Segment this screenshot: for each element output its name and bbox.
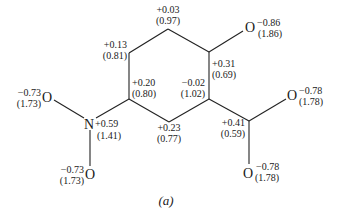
nitro-oxygen-lower: O −0.73 (1.73) (60, 164, 95, 187)
population: (0.97) (156, 15, 180, 27)
charge: +0.59 (95, 118, 118, 129)
ring-lowerright-label: −0.02 (1.02) (181, 77, 205, 100)
bond-top-upperleft (129, 29, 168, 53)
population: (0.81) (103, 50, 127, 62)
nitro-oxygen-upper: O −0.73 (1.73) (17, 87, 52, 110)
hydroxyl-oxygen: O −0.86 (1.86) (245, 17, 282, 40)
bond-carboxyl-right-o (249, 99, 286, 121)
charge: +0.03 (156, 4, 179, 15)
ring-upperleft-label: +0.13 (0.81) (103, 39, 127, 62)
population: (1.86) (258, 28, 282, 40)
bond-nitrogen-upper-o (54, 100, 84, 118)
charge: −0.73 (61, 164, 84, 175)
ring-top-label: +0.03 (0.97) (156, 4, 180, 27)
population: (1.73) (17, 98, 41, 110)
charge: −0.73 (18, 87, 41, 98)
population: (1.78) (255, 172, 279, 184)
charge: −0.78 (256, 161, 279, 172)
charge: −0.02 (182, 77, 205, 88)
population: (0.80) (132, 88, 156, 100)
population: (1.73) (60, 175, 84, 187)
ring-bonds (129, 29, 209, 122)
population: (0.59) (221, 128, 245, 140)
ring-bottom-label: +0.23 (0.77) (157, 122, 181, 145)
population: (1.41) (97, 130, 121, 142)
atom-symbol: O (85, 167, 95, 182)
bond-ring-hydroxyl-o (209, 31, 243, 52)
charge: +0.13 (104, 39, 127, 50)
bond-lowerright-bottom (169, 99, 209, 122)
bond-ring-nitrogen (96, 99, 129, 118)
carboxyl-oxygen-bottom: O −0.78 (1.78) (243, 161, 279, 184)
atom-symbol: O (287, 88, 297, 103)
molecule-diagram: +0.03 (0.97) +0.13 (0.81) +0.31 (0.69) +… (0, 0, 338, 217)
ring-upperright-label: +0.31 (0.69) (212, 58, 236, 81)
charge: +0.31 (212, 58, 235, 69)
charge: +0.41 (222, 117, 245, 128)
ring-lowerleft-label: +0.20 (0.80) (132, 77, 156, 100)
bond-top-upperright (168, 29, 209, 52)
charge: −0.78 (299, 85, 322, 96)
population: (1.02) (181, 88, 205, 100)
charge: +0.20 (132, 77, 155, 88)
figure-caption: (a) (158, 193, 173, 208)
bond-lowerleft-bottom (129, 99, 169, 122)
atom-symbol: O (42, 90, 52, 105)
carboxyl-carbon: +0.41 (0.59) (221, 117, 245, 140)
atom-symbol: O (245, 20, 255, 35)
population: (0.77) (157, 133, 181, 145)
charge: +0.23 (157, 122, 180, 133)
carboxyl-oxygen-right: O −0.78 (1.78) (287, 85, 323, 108)
population: (1.78) (299, 96, 323, 108)
charge: −0.86 (257, 17, 280, 28)
population: (0.69) (212, 69, 236, 81)
atom-symbol: O (243, 166, 253, 181)
atom-symbol: N (84, 117, 94, 132)
substituent-bonds (54, 31, 286, 166)
